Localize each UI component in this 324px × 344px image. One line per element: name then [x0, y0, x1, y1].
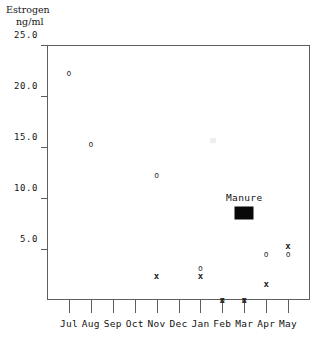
- x-axis-tick: [135, 300, 136, 313]
- y-axis-tick: [41, 249, 48, 250]
- cross-marker-icon: x: [198, 271, 203, 280]
- open-circle-marker-icon: o: [286, 250, 291, 259]
- x-axis-tick: [266, 300, 267, 313]
- y-axis-tick: [41, 198, 48, 199]
- x-axis-tick: [157, 300, 158, 313]
- cross-marker-icon: x: [242, 296, 247, 305]
- cross-marker-icon: x: [263, 279, 268, 288]
- y-axis-tick-label: 25.0: [0, 30, 38, 40]
- y-axis-tick: [41, 45, 48, 46]
- y-axis-tick-label: 20.0: [0, 81, 38, 91]
- open-circle-marker-icon: o: [264, 250, 269, 259]
- x-axis-tick: [179, 300, 180, 313]
- cross-marker-icon: x: [220, 296, 225, 305]
- annotation-swatch-manure: [235, 207, 254, 220]
- y-axis-tick: [41, 147, 48, 148]
- y-axis-tick-label: 15.0: [0, 132, 38, 142]
- open-circle-marker-icon: o: [66, 68, 71, 77]
- cross-marker-icon: x: [285, 241, 290, 250]
- x-axis-tick-label-may: May: [268, 318, 308, 329]
- y-axis-tick-label: 10.0: [0, 183, 38, 193]
- y-axis-title-line1: Estrogen: [6, 4, 50, 15]
- y-axis-tick-label: 5.0: [0, 234, 38, 244]
- estrogen-scatter-chart: Estrogen ng/ml 25.020.015.010.05.0 JulAu…: [0, 0, 324, 344]
- y-axis-tick: [41, 96, 48, 97]
- annotation-label-manure: Manure: [226, 192, 263, 203]
- cross-marker-icon: x: [154, 271, 159, 280]
- x-axis-tick: [91, 300, 92, 313]
- x-axis-tick: [113, 300, 114, 313]
- x-axis-tick: [288, 300, 289, 313]
- x-axis-tick: [200, 300, 201, 313]
- x-axis-tick: [69, 300, 70, 313]
- open-circle-marker-icon: o: [88, 139, 93, 148]
- y-axis-title-line2: ng/ml: [6, 16, 50, 28]
- scan-artifact: [210, 138, 216, 143]
- y-axis-title: Estrogen ng/ml: [6, 4, 50, 27]
- plot-area: [47, 45, 310, 300]
- open-circle-marker-icon: o: [154, 170, 159, 179]
